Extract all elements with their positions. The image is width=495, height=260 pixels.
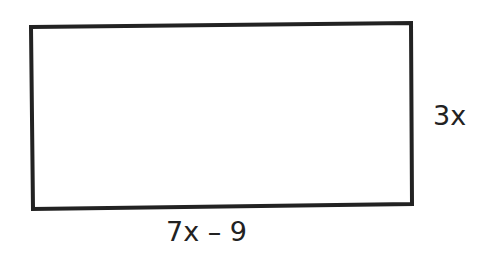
height-label: 3x	[433, 100, 466, 131]
rectangle-diagram	[0, 0, 495, 260]
rectangle	[31, 23, 412, 209]
width-label: 7x – 9	[166, 216, 247, 247]
